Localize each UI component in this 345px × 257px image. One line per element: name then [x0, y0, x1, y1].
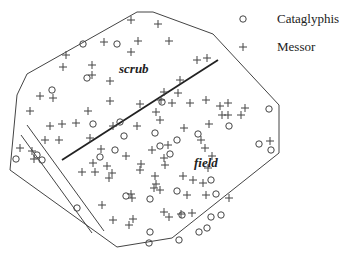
messor-point	[97, 145, 105, 153]
messor-point	[174, 89, 182, 97]
messor-point	[49, 94, 57, 102]
messor-point	[186, 99, 194, 107]
region-label-scrub: scrub	[119, 61, 149, 77]
cataglyphis-point	[218, 212, 224, 218]
messor-point	[177, 210, 185, 218]
cataglyphis-point	[121, 133, 127, 139]
messor-point	[189, 176, 197, 184]
cataglyphis-point	[112, 147, 118, 153]
messor-point	[91, 168, 99, 176]
messor-point	[134, 37, 142, 45]
cataglyphis-point	[97, 154, 103, 160]
messor-point	[59, 63, 67, 71]
messor-point	[151, 172, 159, 180]
messor-point	[122, 152, 130, 160]
messor-point	[179, 172, 187, 180]
legend-plus-icon	[239, 43, 247, 51]
messor-point	[201, 144, 209, 152]
cataglyphis-point	[174, 137, 180, 143]
cataglyphis-point	[147, 196, 153, 202]
messor-point	[152, 180, 160, 188]
messor-point	[266, 137, 274, 145]
messor-point	[202, 96, 210, 104]
messor-point	[78, 168, 86, 176]
cataglyphis-point	[157, 143, 163, 149]
messor-point	[58, 120, 66, 128]
messor-point	[100, 38, 108, 46]
messor-point	[127, 190, 135, 198]
legend-label-cataglyphis: Cataglyphis	[277, 11, 339, 27]
messor-point	[168, 99, 176, 107]
cataglyphis-point	[268, 147, 274, 153]
cataglyphis-point	[196, 229, 202, 235]
messor-point	[137, 160, 145, 168]
cataglyphis-point	[39, 157, 45, 163]
messor-point	[237, 111, 245, 119]
messor-point	[199, 179, 207, 187]
messor-point	[26, 107, 34, 115]
cataglyphis-point	[49, 87, 55, 93]
region-label-field: field	[194, 155, 218, 171]
messor-point	[129, 215, 137, 223]
legend-circle-icon	[240, 16, 246, 22]
cataglyphis-point	[226, 123, 232, 129]
messor-point	[88, 71, 96, 79]
cataglyphis-point	[208, 177, 214, 183]
messor-point	[72, 119, 80, 127]
messor-point	[154, 20, 162, 28]
messor-point	[36, 92, 44, 100]
cataglyphis-point	[13, 156, 19, 162]
cataglyphis-point	[266, 106, 272, 112]
messor-point	[46, 122, 54, 130]
cataglyphis-point	[256, 141, 262, 147]
messor-point	[205, 120, 213, 128]
messor-point	[165, 213, 173, 221]
messor-point	[62, 51, 70, 59]
messor-point	[156, 186, 164, 194]
cataglyphis-point	[146, 240, 152, 246]
cataglyphis-point	[195, 131, 201, 137]
messor-point	[183, 191, 191, 199]
messor-point	[203, 54, 211, 62]
messor-point	[109, 216, 117, 224]
cataglyphis-point	[179, 212, 185, 218]
messor-point	[103, 162, 111, 170]
messor-point	[160, 88, 168, 96]
messor-point	[224, 111, 232, 119]
messor-point	[16, 144, 24, 152]
messor-point	[84, 107, 92, 115]
messor-point	[89, 159, 97, 167]
messor-point	[88, 61, 96, 69]
messor-point	[150, 184, 158, 192]
cataglyphis-point	[90, 121, 96, 127]
messor-point	[106, 77, 114, 85]
legend	[239, 16, 247, 51]
cataglyphis-point	[208, 214, 214, 220]
messor-point	[161, 161, 169, 169]
legend-label-messor: Messor	[277, 39, 315, 55]
messor-point	[156, 116, 164, 124]
cataglyphis-point	[204, 225, 210, 231]
messor-points	[16, 16, 274, 229]
messor-point	[125, 221, 133, 229]
messor-point	[41, 136, 49, 144]
cataglyphis-point	[176, 237, 182, 243]
messor-point	[136, 166, 144, 174]
messor-point	[55, 136, 63, 144]
messor-point	[241, 104, 249, 112]
messor-point	[224, 99, 232, 107]
messor-point	[193, 56, 201, 64]
messor-point	[216, 102, 224, 110]
cataglyphis-point	[152, 130, 158, 136]
messor-point	[127, 48, 135, 56]
cataglyphis-point	[174, 188, 180, 194]
messor-point	[106, 97, 114, 105]
messor-point	[160, 208, 168, 216]
messor-point	[98, 201, 106, 209]
cataglyphis-point	[84, 75, 90, 81]
messor-point	[165, 37, 173, 45]
messor-point	[136, 100, 144, 108]
messor-point	[152, 108, 160, 116]
messor-point	[133, 122, 141, 130]
cataglyphis-point	[167, 151, 173, 157]
